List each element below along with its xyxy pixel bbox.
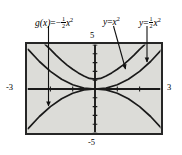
- axis-label-ymax: 5: [90, 31, 94, 40]
- label-y-equals-half-x-squared: y=12x2: [139, 16, 161, 30]
- figure-root: g(x)=−12x2 y=x2 y=12x2 5 -5 -3 3: [0, 0, 182, 155]
- axis-label-xmax: 3: [167, 83, 171, 92]
- label-y2-exponent: 2: [158, 16, 161, 23]
- axis-label-xmin: -3: [6, 83, 13, 92]
- label-y2-equals: =: [143, 18, 148, 28]
- label-y1-exponent: 2: [117, 15, 120, 22]
- axis-label-ymin: -5: [88, 138, 95, 147]
- label-g-of-x: g(x)=−12x2: [35, 16, 73, 30]
- label-g-fraction: 12: [61, 16, 65, 30]
- leader-arrow-y-x-squared: [114, 26, 126, 69]
- label-g-denominator: 2: [61, 22, 65, 29]
- label-y-equals-x-squared: y=x2: [103, 16, 120, 28]
- label-g-fn: g(x): [35, 18, 50, 28]
- label-g-exponent: 2: [70, 16, 73, 23]
- label-g-sign: −: [56, 18, 61, 28]
